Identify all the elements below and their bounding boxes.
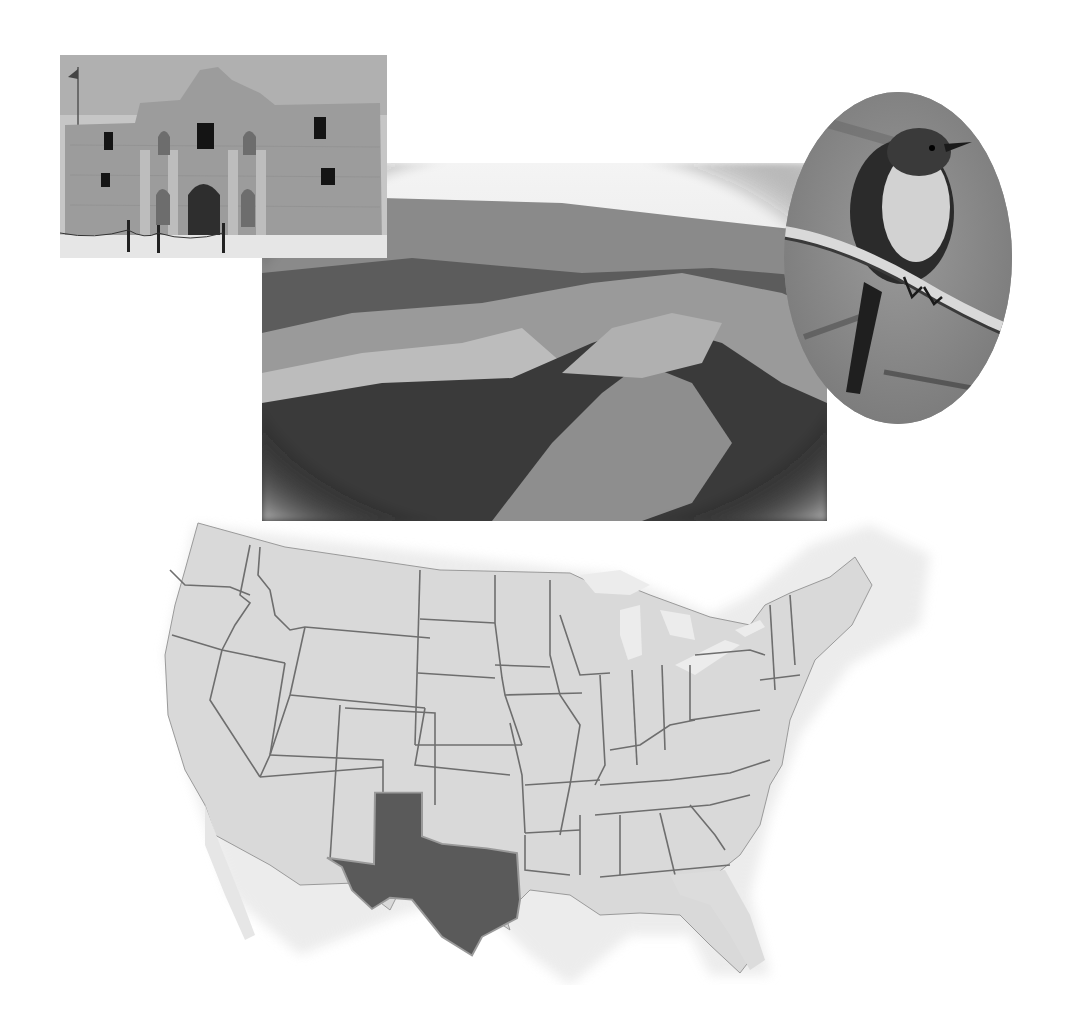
alamo-door <box>188 184 220 235</box>
alamo-image <box>60 55 387 258</box>
mockingbird-image <box>784 92 1012 424</box>
us-map <box>150 515 950 985</box>
